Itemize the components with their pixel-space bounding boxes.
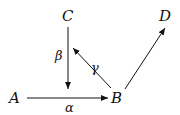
node-b: B — [110, 89, 122, 107]
node-a: A — [7, 89, 20, 107]
edge-b-to-d — [125, 28, 165, 89]
commutative-diagram: C D A B α β γ — [0, 0, 180, 115]
node-d: D — [158, 7, 171, 25]
label-beta: β — [54, 48, 63, 63]
label-alpha: α — [65, 100, 74, 115]
label-gamma: γ — [91, 60, 99, 75]
node-c: C — [62, 7, 74, 25]
